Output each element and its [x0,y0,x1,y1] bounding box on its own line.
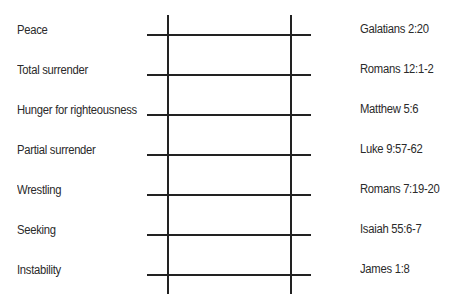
scripture-reference: Romans 12:1-2 [360,62,433,76]
ladder-rung [147,34,311,36]
stage-label: Partial surrender [17,143,96,157]
stage-label: Total surrender [17,63,88,77]
ladder-rung [147,74,311,76]
ladder-rung [147,114,311,116]
scripture-reference: Luke 9:57-62 [360,142,422,156]
scripture-reference: Galatians 2:20 [360,22,429,36]
stage-label: Wrestling [17,183,61,197]
scripture-reference: James 1:8 [360,262,409,276]
ladder-rung [147,274,311,276]
stage-label: Instability [17,263,61,277]
stage-label: Seeking [17,223,56,237]
scripture-reference: Romans 7:19-20 [360,182,439,196]
scripture-reference: Isaiah 55:6-7 [360,222,422,236]
ladder-rung [147,194,311,196]
stage-label: Hunger for righteousness [17,103,137,117]
stage-label: Peace [17,23,48,37]
ladder-rung [147,154,311,156]
ladder-rung [147,234,311,236]
scripture-reference: Matthew 5:6 [360,102,418,116]
